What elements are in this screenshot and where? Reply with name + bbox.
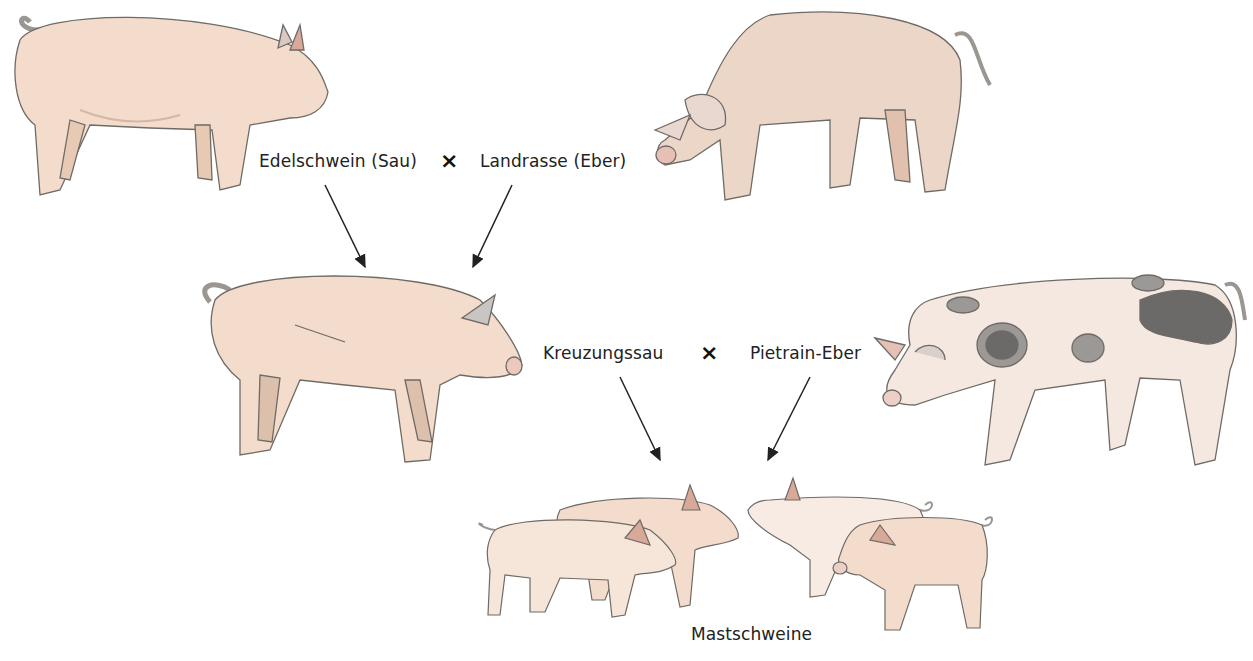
arrow-pietrain-to-piglets [768,377,810,460]
label-fattening-pigs: Mastschweine [691,624,812,644]
arrow-boar-to-crossbred [473,185,512,267]
pietrain-boar-icon [875,275,1245,465]
label-pietrain-boar: Pietrain-Eber [750,343,861,363]
arrow-sow-to-crossbred [325,185,365,267]
arrow-crossbred-to-piglets [620,377,660,460]
cross-symbol-gen1: × [440,148,458,173]
crossbred-sow-icon [205,276,522,462]
label-crossbred-sow: Kreuzungssau [543,343,663,363]
diagram-canvas [0,0,1253,661]
label-edelschwein-sow: Edelschwein (Sau) [259,151,417,171]
piglets-group-icon [479,478,992,630]
landrasse-boar-icon [655,12,990,200]
label-landrasse-boar: Landrasse (Eber) [480,151,626,171]
cross-symbol-gen2: × [700,340,718,365]
